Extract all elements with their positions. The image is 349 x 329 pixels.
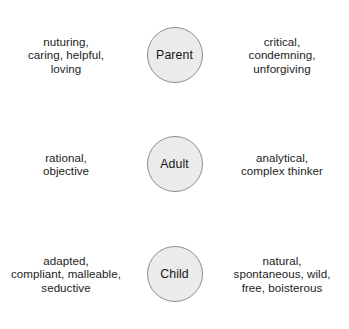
- trait-line: analytical,: [215, 151, 349, 164]
- trait-line: compliant, malleable,: [0, 267, 132, 280]
- trait-line: condemning,: [215, 48, 349, 61]
- trait-line: loving: [0, 62, 132, 75]
- trait-line: seductive: [0, 281, 132, 294]
- state-cell-parent: Parent: [138, 27, 211, 83]
- state-label: Parent: [156, 49, 193, 61]
- ego-state-row-adult: rational, objective Adult analytical, co…: [0, 110, 349, 220]
- trait-line: rational,: [0, 151, 132, 164]
- adapted-traits-child: adapted, compliant, malleable, seductive: [0, 254, 138, 294]
- trait-line: objective: [0, 164, 132, 177]
- state-cell-adult: Adult: [138, 136, 211, 192]
- ego-states-diagram: nuturing, caring, helpful, loving Parent…: [0, 0, 349, 329]
- trait-line: complex thinker: [215, 164, 349, 177]
- critical-traits-parent: critical, condemning, unforgiving: [211, 35, 349, 75]
- natural-traits-child: natural, spontaneous, wild, free, boiste…: [211, 254, 349, 294]
- left-traits-adult: rational, objective: [0, 151, 138, 178]
- state-cell-child: Child: [138, 246, 211, 302]
- state-label: Child: [160, 268, 189, 280]
- trait-line: natural,: [215, 254, 349, 267]
- trait-line: adapted,: [0, 254, 132, 267]
- state-label: Adult: [160, 158, 189, 170]
- negative-traits-parent: nuturing, caring, helpful, loving: [0, 35, 138, 75]
- trait-line: critical,: [215, 35, 349, 48]
- trait-line: unforgiving: [215, 62, 349, 75]
- state-circle-child: Child: [147, 246, 203, 302]
- ego-state-row-child: adapted, compliant, malleable, seductive…: [0, 219, 349, 329]
- state-circle-parent: Parent: [147, 27, 203, 83]
- right-traits-adult: analytical, complex thinker: [211, 151, 349, 178]
- trait-line: nuturing,: [0, 35, 132, 48]
- trait-line: caring, helpful,: [0, 48, 132, 61]
- ego-state-row-parent: nuturing, caring, helpful, loving Parent…: [0, 0, 349, 110]
- trait-line: free, boisterous: [215, 281, 349, 294]
- state-circle-adult: Adult: [147, 136, 203, 192]
- trait-line: spontaneous, wild,: [215, 267, 349, 280]
